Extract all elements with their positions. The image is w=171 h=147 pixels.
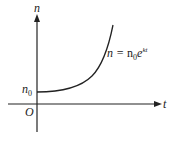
intercept-label: n0 — [22, 83, 32, 100]
y-axis-arrow-icon — [34, 14, 40, 22]
x-axis-arrow-icon — [154, 101, 162, 107]
y-axis-label: n — [34, 2, 40, 14]
curve-equation-label: n = n0ekt — [107, 44, 148, 64]
exponential-graph: n t O n0 n = n0ekt — [0, 0, 171, 147]
graph-canvas — [0, 0, 171, 147]
origin-label: O — [25, 106, 34, 118]
x-axis-label: t — [163, 98, 166, 110]
exponential-curve — [37, 25, 113, 92]
